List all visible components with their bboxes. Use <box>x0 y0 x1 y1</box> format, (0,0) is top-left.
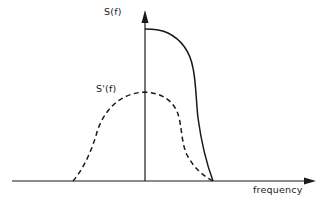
spectrum-diagram: S(f) S'(f) frequency <box>0 0 324 204</box>
y-axis <box>142 10 149 181</box>
x-axis-arrowhead-icon <box>304 178 316 185</box>
frequency-axis-label: frequency <box>253 185 302 195</box>
curve-s-of-f <box>145 29 213 181</box>
curve-s-prime-of-f <box>73 92 213 181</box>
diagram-canvas <box>0 0 324 204</box>
y-axis-arrowhead-icon <box>142 10 149 23</box>
s-of-f-label: S(f) <box>104 7 122 17</box>
s-prime-of-f-label: S'(f) <box>96 84 116 94</box>
